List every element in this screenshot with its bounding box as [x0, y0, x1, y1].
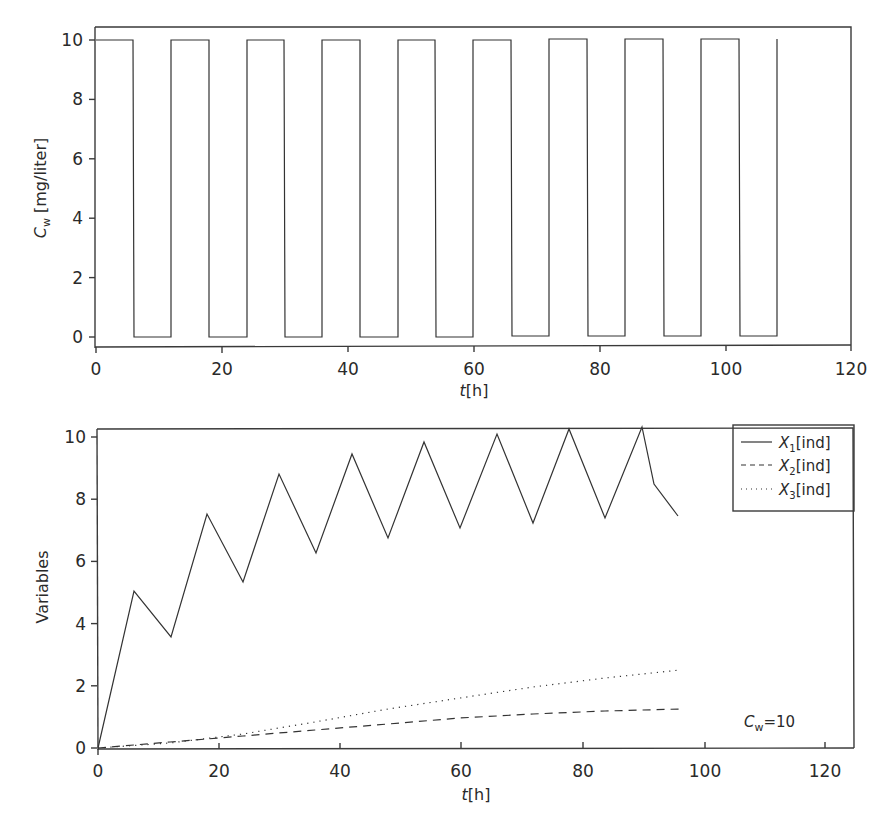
series-x1 [98, 427, 678, 748]
bottom-y-ticks: 0 2 4 6 8 10 [64, 427, 97, 758]
series-x2 [98, 709, 680, 748]
bottom-ytick-label: 6 [75, 551, 86, 571]
cw-annotation: Cw=10 [744, 713, 795, 734]
legend-item-x2: X2[ind] [778, 457, 831, 477]
top-chart: 0 2 4 6 8 10 0 20 40 60 80 100 120 t[h] … [31, 27, 867, 400]
top-xtick-label: 0 [91, 359, 102, 379]
legend-item-x3: X3[ind] [778, 481, 831, 501]
top-xtick-label: 120 [835, 359, 867, 379]
bottom-x-axis-label: t[h] [462, 785, 491, 804]
top-y-axis-label: Cw [mg/liter] [31, 138, 53, 238]
top-ytick-label: 0 [72, 327, 83, 347]
legend: X1[ind] X2[ind] X3[ind] [733, 425, 854, 511]
top-ytick-label: 4 [72, 208, 83, 228]
top-y-ticks: 0 2 4 6 8 10 [61, 30, 95, 347]
series-x3 [98, 670, 680, 748]
bottom-xtick-label: 20 [208, 761, 230, 781]
top-xtick-label: 100 [710, 359, 742, 379]
figure: 0 2 4 6 8 10 0 20 40 60 80 100 120 t[h] … [0, 0, 891, 833]
bottom-ytick-label: 0 [75, 738, 86, 758]
bottom-xtick-label: 120 [809, 761, 841, 781]
top-xtick-label: 80 [589, 359, 611, 379]
bottom-xtick-label: 40 [329, 761, 351, 781]
bottom-ytick-label: 8 [75, 489, 86, 509]
bottom-ytick-label: 4 [75, 614, 86, 634]
bottom-x-axis [98, 748, 854, 749]
top-ytick-label: 2 [72, 268, 83, 288]
bottom-xtick-label: 0 [93, 761, 104, 781]
top-xtick-label: 60 [463, 359, 485, 379]
top-xtick-label: 40 [337, 359, 359, 379]
bottom-chart: 0 2 4 6 8 10 0 20 40 60 80 100 120 t[h] … [33, 425, 854, 804]
top-ytick-label: 8 [72, 89, 83, 109]
top-ytick-label: 6 [72, 149, 83, 169]
bottom-xtick-label: 60 [450, 761, 472, 781]
bottom-ytick-label: 10 [64, 427, 86, 447]
bottom-y-axis [97, 429, 98, 750]
bottom-plot-frame [97, 428, 854, 748]
bottom-xtick-label: 100 [689, 761, 721, 781]
top-x-axis-label: t[h] [460, 381, 489, 400]
bottom-ytick-label: 2 [75, 676, 86, 696]
top-ytick-label: 10 [61, 30, 83, 50]
top-x-ticks: 0 20 40 60 80 100 120 [91, 345, 868, 379]
top-x-axis [95, 345, 851, 347]
legend-item-x1: X1[ind] [778, 434, 831, 454]
top-series-cw-line [96, 39, 777, 337]
bottom-xtick-label: 80 [572, 761, 594, 781]
bottom-y-axis-label: Variables [33, 550, 52, 623]
top-xtick-label: 20 [211, 359, 233, 379]
